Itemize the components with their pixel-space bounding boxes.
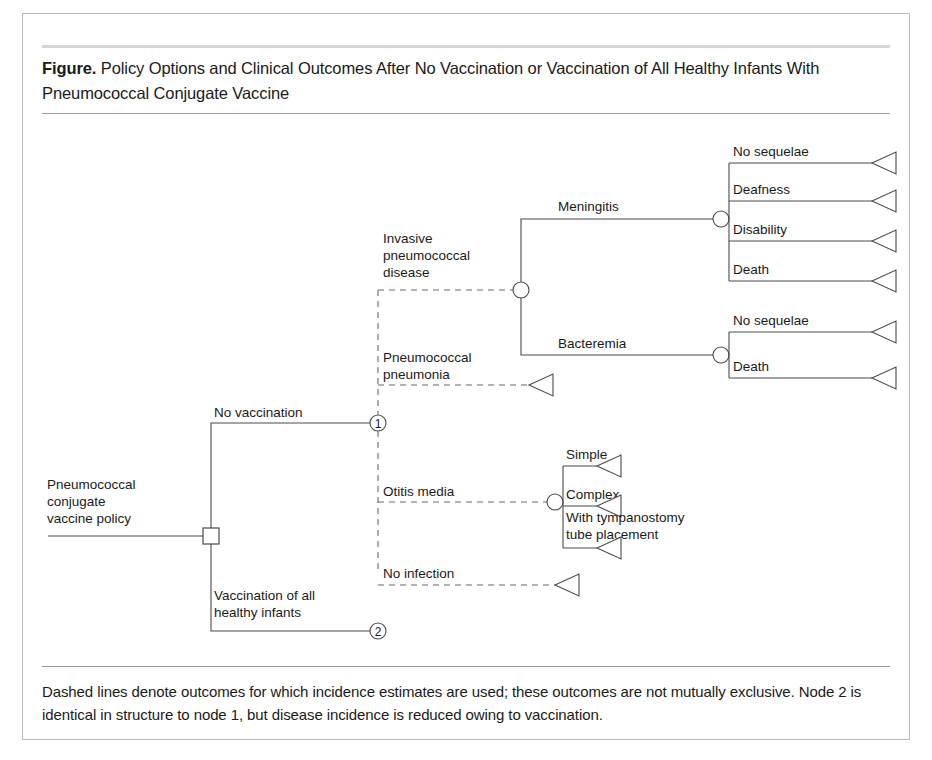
otitis-chance-node[interactable] — [547, 494, 563, 510]
no-infection-terminal-triangle[interactable] — [555, 574, 579, 596]
men-no-sequelae-terminal-triangle[interactable] — [872, 152, 896, 174]
root-label-line3: vaccine policy — [47, 511, 131, 526]
pneumonia-terminal-triangle[interactable] — [529, 374, 553, 396]
men-deafness-label: Deafness — [733, 182, 790, 197]
pneumonia-label-line2: pneumonia — [383, 367, 450, 382]
branch-pneumococcal-pneumonia: Pneumococcal pneumonia — [378, 350, 553, 396]
decision-tree-diagram: Pneumococcal conjugate vaccine policy No… — [0, 0, 932, 760]
bac-no-sequelae-terminal-triangle[interactable] — [872, 321, 896, 343]
bac-death-terminal-triangle[interactable] — [872, 367, 896, 389]
meningitis-label: Meningitis — [558, 199, 619, 214]
otitis-simple-label: Simple — [566, 447, 607, 462]
outcome-bacteremia-death: Death — [729, 359, 896, 389]
branch-invasive-pneumococcal-disease: Invasive pneumococcal disease — [378, 231, 529, 298]
ipd-label-line2: pneumococcal — [383, 248, 470, 263]
footer-rule — [42, 666, 890, 667]
men-disability-label: Disability — [733, 222, 787, 237]
no-vaccination-label: No vaccination — [214, 405, 303, 420]
node-1-number: 1 — [375, 417, 382, 431]
outcome-meningitis-death: Death — [729, 262, 896, 292]
outcome-bacteremia-no-sequelae: No sequelae — [729, 313, 896, 343]
vaccination-all-label-line2: healthy infants — [214, 605, 301, 620]
men-death-label: Death — [733, 262, 769, 277]
bac-no-sequelae-label: No sequelae — [733, 313, 809, 328]
meningitis-branch-line — [521, 219, 713, 282]
branch-otitis-media: Otitis media Simple Complex With tympano… — [378, 447, 685, 559]
men-deafness-terminal-triangle[interactable] — [872, 190, 896, 212]
no-infection-label: No infection — [383, 566, 454, 581]
men-no-sequelae-label: No sequelae — [733, 144, 809, 159]
no-vaccination-branch-line — [211, 423, 370, 528]
bacteremia-chance-node[interactable] — [713, 347, 729, 363]
policy-branch-vaccination-all: Vaccination of all healthy infants 2 — [211, 544, 386, 639]
bac-death-label: Death — [733, 359, 769, 374]
men-death-terminal-triangle[interactable] — [872, 270, 896, 292]
ipd-label-line3: disease — [383, 265, 430, 280]
policy-branch-no-vaccination: No vaccination 1 — [211, 405, 386, 528]
men-disability-terminal-triangle[interactable] — [872, 230, 896, 252]
ipd-label-line1: Invasive — [383, 231, 433, 246]
figure-footnote: Dashed lines denote outcomes for which i… — [42, 680, 892, 726]
otitis-tube-label-line2: tube placement — [566, 527, 659, 542]
outcome-otitis-tympanostomy-tube: With tympanostomy tube placement — [563, 510, 685, 559]
pneumonia-label-line1: Pneumococcal — [383, 350, 472, 365]
branch-no-infection: No infection — [378, 566, 579, 596]
root-label-line1: Pneumococcal — [47, 477, 136, 492]
outcome-meningitis-disability: Disability — [729, 222, 896, 252]
meningitis-chance-node[interactable] — [713, 211, 729, 227]
outcome-meningitis-deafness: Deafness — [729, 182, 896, 212]
root-label-line2: conjugate — [47, 494, 106, 509]
vaccination-all-label-line1: Vaccination of all — [214, 588, 315, 603]
node-2-number: 2 — [375, 625, 382, 639]
ipd-chance-node[interactable] — [513, 282, 529, 298]
otitis-tube-label-line1: With tympanostomy — [566, 510, 685, 525]
branch-meningitis: Meningitis No sequelae Deafness Disabili… — [521, 144, 896, 292]
root-group: Pneumococcal conjugate vaccine policy — [47, 477, 219, 544]
outcome-otitis-simple: Simple — [563, 447, 621, 477]
otitis-label: Otitis media — [383, 484, 455, 499]
bacteremia-label: Bacteremia — [558, 336, 627, 351]
branch-bacteremia: Bacteremia No sequelae Death — [521, 298, 896, 389]
outcome-meningitis-no-sequelae: No sequelae — [729, 144, 896, 174]
decision-node-square[interactable] — [203, 528, 219, 544]
